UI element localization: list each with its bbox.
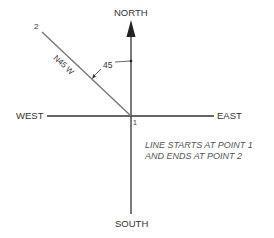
north-arrow-icon [127, 20, 136, 37]
point-2-label: 2 [34, 23, 38, 31]
angle-tick-dot [130, 60, 133, 63]
bearing-line [42, 32, 131, 116]
angle-label: 45 [103, 61, 112, 70]
note-text: LINE STARTS AT POINT 1 AND ENDS AT POINT… [145, 140, 253, 161]
note-line-2: AND ENDS AT POINT 2 [145, 151, 253, 162]
note-line-1: LINE STARTS AT POINT 1 [145, 140, 253, 151]
north-label: NORTH [114, 8, 148, 18]
east-label: EAST [217, 111, 242, 121]
point-1-label: 1 [133, 119, 137, 126]
west-label: WEST [16, 111, 43, 121]
south-label: SOUTH [115, 219, 148, 229]
angle-leader-north [115, 61, 131, 62]
compass-bearing-diagram: NORTH SOUTH WEST EAST 2 1 N45 W 45 LINE … [0, 0, 274, 238]
